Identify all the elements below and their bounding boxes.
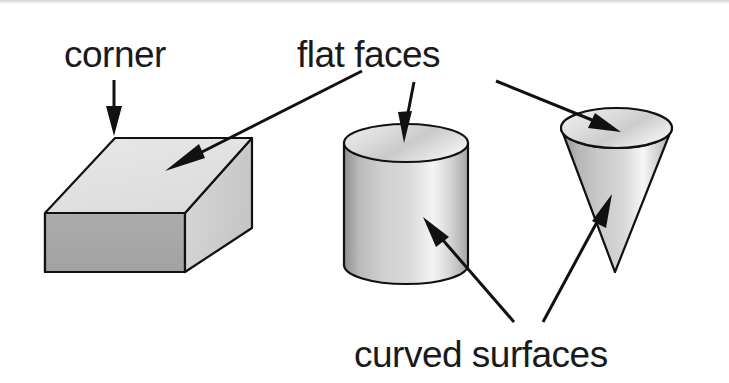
- label-flat-faces: flat faces: [297, 34, 440, 75]
- shapes-diagram: corner flat faces curved surfaces: [0, 0, 729, 383]
- arrow-curved-cylinder-shaft: [442, 239, 514, 322]
- cylinder-curved-surface: [344, 143, 468, 284]
- label-corner: corner: [64, 34, 166, 75]
- shape-cylinder: [344, 124, 468, 284]
- arrow-flatfaces-to-cuboid: [165, 71, 362, 171]
- arrow-corner-to-cuboid: [106, 80, 122, 136]
- shape-cone: [561, 108, 672, 272]
- cuboid-front-face: [45, 213, 185, 272]
- arrow-flatfaces-cone-shaft: [496, 81, 592, 120]
- arrow-flatfaces-to-cone: [496, 81, 621, 132]
- arrow-corner-head: [106, 106, 122, 136]
- arrow-curved-cone-shaft: [543, 222, 597, 322]
- label-curved-surfaces: curved surfaces: [354, 334, 608, 375]
- arrow-curvedsurfaces-to-cone: [543, 194, 612, 322]
- diagram-page: corner flat faces curved surfaces: [0, 0, 729, 383]
- cone-curved-surface: [561, 128, 672, 272]
- shape-cuboid: [45, 138, 252, 272]
- arrow-flatfaces-cuboid-shaft: [196, 71, 362, 155]
